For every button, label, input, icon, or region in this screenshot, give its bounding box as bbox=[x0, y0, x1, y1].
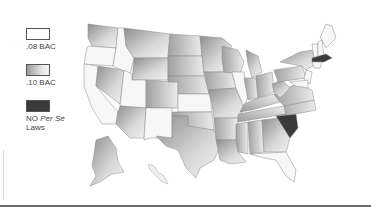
legend-swatch-08-bac bbox=[26, 28, 50, 40]
state-alaska bbox=[90, 136, 124, 186]
figure: .08 BAC .10 BAC NO Per SeLaws bbox=[0, 0, 371, 212]
state-alabama bbox=[248, 120, 264, 154]
legend-label-italic: Per Se bbox=[40, 114, 64, 123]
legend-label-prefix: NO bbox=[26, 114, 40, 123]
us-map bbox=[80, 18, 370, 188]
state-oregon bbox=[84, 46, 116, 66]
legend-item-08-bac: .08 BAC bbox=[26, 28, 56, 51]
state-new-mexico bbox=[144, 108, 172, 140]
legend-label-no-per-se: NO Per SeLaws bbox=[26, 114, 65, 132]
state-florida bbox=[250, 152, 296, 182]
legend-label-10-bac: .10 BAC bbox=[26, 78, 56, 87]
legend-item-10-bac: .10 BAC bbox=[26, 64, 56, 87]
legend-item-no-per-se: NO Per SeLaws bbox=[26, 100, 65, 132]
state-wyoming bbox=[132, 58, 168, 80]
state-arkansas bbox=[214, 118, 238, 140]
state-arizona bbox=[116, 106, 146, 138]
state-colorado bbox=[146, 80, 178, 108]
state-connecticut bbox=[312, 62, 322, 68]
state-montana bbox=[124, 28, 170, 58]
state-michigan bbox=[246, 50, 262, 78]
left-divider bbox=[3, 150, 4, 200]
state-iowa bbox=[204, 72, 236, 90]
legend-swatch-10-bac bbox=[26, 64, 50, 76]
state-pennsylvania bbox=[274, 66, 306, 82]
legend-label-suffix: Laws bbox=[26, 123, 45, 132]
legend-swatch-no-per-se bbox=[26, 100, 50, 112]
state-ohio bbox=[256, 72, 274, 98]
state-hawaii bbox=[148, 164, 168, 184]
bottom-divider bbox=[0, 205, 371, 207]
state-north-dakota bbox=[168, 34, 202, 56]
state-mississippi bbox=[236, 122, 248, 154]
legend-label-08-bac: .08 BAC bbox=[26, 42, 56, 51]
state-south-dakota bbox=[168, 56, 204, 76]
state-washington bbox=[88, 24, 118, 48]
state-wisconsin bbox=[222, 46, 244, 74]
state-kansas bbox=[178, 94, 212, 112]
